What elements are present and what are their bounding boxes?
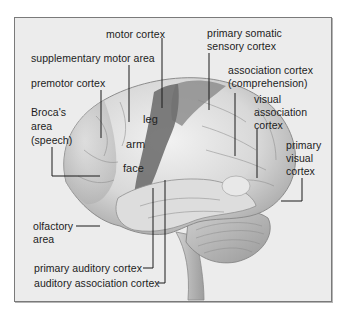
label-olfactory-area-line2: area	[33, 233, 54, 246]
label-visual-association-line2: association	[254, 106, 307, 119]
label-premotor-cortex: premotor cortex	[31, 77, 105, 90]
label-primary-somatic-line2: sensory cortex	[207, 40, 276, 53]
label-primary-visual-line1: primary	[286, 139, 321, 152]
label-face: face	[123, 162, 144, 175]
supramarginal-gyrus	[222, 176, 250, 196]
label-brocas-area-line2: area	[31, 120, 52, 133]
label-visual-association-line3: cortex	[254, 119, 283, 132]
label-primary-somatic-line1: primary somatic	[207, 27, 282, 40]
label-primary-visual-line2: visual	[286, 152, 313, 165]
frontal-lobe	[64, 100, 117, 204]
label-auditory-association-cortex: auditory association cortex	[34, 277, 160, 290]
label-supplementary-motor-area: supplementary motor area	[31, 52, 155, 65]
label-primary-auditory-cortex: primary auditory cortex	[34, 262, 142, 275]
label-association-cortex-line2: (comprehension)	[228, 77, 308, 90]
label-brocas-area-line1: Broca's	[31, 106, 66, 119]
label-leg: leg	[143, 113, 158, 126]
label-association-cortex-line1: association cortex	[228, 64, 313, 77]
label-brocas-area-line3: (speech)	[31, 134, 72, 147]
label-motor-cortex: motor cortex	[106, 28, 165, 41]
label-visual-association-line1: visual	[254, 93, 281, 106]
label-olfactory-area-line1: olfactory	[33, 220, 73, 233]
label-arm: arm	[126, 138, 145, 151]
label-primary-visual-line3: cortex	[286, 165, 315, 178]
